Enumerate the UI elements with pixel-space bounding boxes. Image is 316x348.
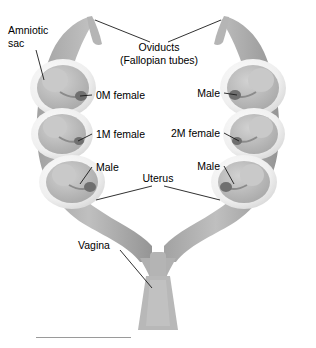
fetus-right-bottom — [211, 155, 277, 209]
label-uterus: Uterus — [128, 172, 188, 185]
label-oviducts-line1: Oviducts — [98, 41, 220, 54]
fetus-head — [248, 68, 274, 92]
footer-rule — [36, 337, 131, 338]
genital-tubercle — [220, 182, 232, 192]
label-male-right-bottom: Male — [156, 160, 220, 173]
fetus-right-mid — [223, 108, 285, 160]
leader-oviduct-right — [168, 20, 221, 42]
fetus-head — [43, 116, 67, 138]
label-amniotic-sac-line1: Amniotic — [8, 24, 48, 37]
label-male-right-top: Male — [156, 87, 220, 100]
fetus-head — [52, 164, 76, 186]
fetus-head — [42, 68, 68, 92]
genital-tubercle — [84, 182, 96, 192]
fetus-head — [240, 164, 264, 186]
label-amniotic-sac: Amniotic sac — [8, 24, 48, 49]
fetus-head — [249, 116, 273, 138]
leader-uterus-left — [96, 186, 152, 200]
label-0m-female: 0M female — [96, 89, 145, 102]
label-vagina: Vagina — [78, 239, 110, 252]
label-amniotic-sac-line2: sac — [8, 37, 48, 50]
vagina-lumen — [146, 280, 170, 326]
label-oviducts: Oviducts (Fallopian tubes) — [98, 41, 220, 66]
fetus-left-mid — [31, 108, 93, 160]
cervical-canal — [150, 252, 166, 278]
uterus-diagram-figure: Amniotic sac Oviducts (Fallopian tubes) … — [0, 0, 316, 348]
label-oviducts-line2: (Fallopian tubes) — [98, 54, 220, 67]
label-male-left: Male — [96, 161, 119, 174]
leader-oviduct-left — [95, 20, 150, 42]
label-2m-female: 2M female — [136, 127, 220, 140]
leader-uterus-right — [164, 186, 220, 200]
